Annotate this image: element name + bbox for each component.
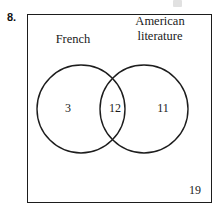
- venn-diagram-figure: 8. French American literature 3 12 11 19: [0, 0, 221, 215]
- count-american-literature-only: 11: [150, 101, 176, 115]
- count-intersection: 12: [102, 101, 128, 115]
- count-outside-both-sets: 19: [182, 183, 208, 197]
- set-label-french: French: [38, 32, 108, 47]
- set-label-american-literature: American literature: [120, 14, 200, 43]
- count-french-only: 3: [55, 101, 81, 115]
- scan-artifact: [173, 0, 182, 7]
- problem-number: 8.: [7, 11, 16, 24]
